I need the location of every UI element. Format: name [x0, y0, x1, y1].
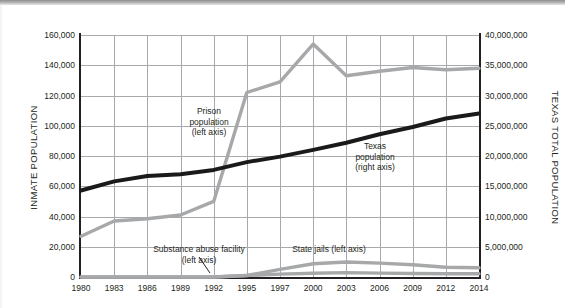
y-axis-left-tick: 140,000: [5, 60, 75, 70]
annotation-statejails-line-1: State jails (left axis): [274, 244, 384, 255]
y-axis-right-tick: 30,000,000: [485, 91, 565, 101]
y-axis-left-tick: 120,000: [5, 91, 75, 101]
annotation-texas-line-1: Texas: [330, 141, 420, 152]
annotation-state-jails: State jails (left axis): [274, 244, 384, 255]
x-axis-tick: 2014: [459, 283, 499, 293]
y-axis-right-tick: 5,000,000: [485, 242, 565, 252]
annotation-substance-line-1: Substance abuse facility: [136, 244, 262, 255]
y-axis-left-tick: 80,000: [5, 151, 75, 161]
y-axis-left-tick: 60,000: [5, 181, 75, 191]
annotation-texas-line-3: (right axis): [330, 162, 420, 173]
y-axis-right-tick: 10,000,000: [485, 212, 565, 222]
y-axis-left-tick: 40,000: [5, 212, 75, 222]
annotation-prison-line-2: population: [164, 117, 254, 128]
y-axis-right-tick: 20,000,000: [485, 151, 565, 161]
y-axis-left-tick: 100,000: [5, 121, 75, 131]
scan-left-edge: [0, 5, 3, 308]
scan-top-strip: [0, 0, 565, 5]
annotation-prison-line-1: Prison: [164, 106, 254, 117]
y-axis-left-tick: 160,000: [5, 30, 75, 40]
y-axis-right-tick: 35,000,000: [485, 60, 565, 70]
y-axis-left-tick: 0: [5, 272, 75, 282]
y-axis-right-tick: 0: [485, 272, 565, 282]
y-axis-right-tick: 25,000,000: [485, 121, 565, 131]
annotation-prison-line-3: (left axis): [164, 127, 254, 138]
y-axis-right-tick: 15,000,000: [485, 181, 565, 191]
y-axis-right-tick: 40,000,000: [485, 30, 565, 40]
annotation-substance-line-2: (left axis): [136, 255, 262, 266]
annotation-texas-line-2: population: [330, 152, 420, 163]
chart-figure: INMATE POPULATION TEXAS TOTAL POPULATION…: [0, 0, 565, 308]
annotation-substance-abuse-facility: Substance abuse facility (left axis): [136, 244, 262, 265]
y-axis-left-tick: 20,000: [5, 242, 75, 252]
annotation-prison-population: Prison population (left axis): [164, 106, 254, 138]
annotation-texas-population: Texas population (right axis): [330, 141, 420, 173]
